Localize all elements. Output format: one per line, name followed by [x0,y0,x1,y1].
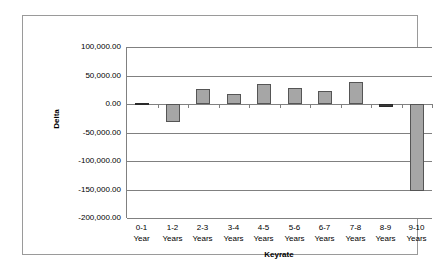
x-axis-tickmark [219,104,220,108]
x-axis-tickmark [310,104,311,108]
y-axis-tick-label: -150,000.00 [53,185,121,195]
gridline [127,218,432,219]
gridline [127,47,432,48]
x-axis-tick-label-line: Years [248,233,279,244]
bar [288,88,302,104]
y-axis-tick-labels: 100,000.0050,000.000.00-50,000.00-100,00… [53,42,121,222]
x-axis-tick-label-line: Years [157,233,188,244]
bar [349,82,363,104]
x-axis-tick-label-line: Years [401,233,432,244]
bar [410,104,424,191]
x-axis-tickmark [249,104,250,108]
x-axis-title: Keyrate [126,250,432,259]
bar [196,89,210,104]
x-axis-tick-label-line: Years [370,233,401,244]
x-axis-tick-label: 9-10Years [401,222,432,244]
x-axis-tick-label: 3-4Years [218,222,249,244]
x-axis-tick-label: 8-9Years [370,222,401,244]
x-axis-tickmark [188,104,189,108]
x-axis-tick-label-line: 9-10 [401,222,432,233]
chart-frame: Delta 100,000.0050,000.000.00-50,000.00-… [22,15,418,255]
x-axis-tick-labels: 0-1Year1-2Years2-3Years3-4Years4-5Years5… [126,222,432,252]
gridline [127,133,432,134]
x-axis-tick-label: 5-6Years [279,222,310,244]
y-axis-tick-label: 100,000.00 [53,42,121,52]
x-axis-tick-label-line: 0-1 [126,222,157,233]
x-axis-tick-label-line: 1-2 [157,222,188,233]
y-axis-tick-label: 0.00 [53,99,121,109]
x-axis-tick-label: 0-1Year [126,222,157,244]
bar [227,94,241,104]
x-axis-tickmark [371,104,372,108]
gridline [127,161,432,162]
x-axis-tick-label-line: Years [340,233,371,244]
x-axis-tickmark [158,104,159,108]
gridline [127,76,432,77]
bar [379,104,393,107]
y-axis-tick-label: 50,000.00 [53,71,121,81]
bar [257,84,271,104]
x-axis-tick-label-line: 4-5 [248,222,279,233]
bar [318,91,332,104]
x-axis-tick-label-line: Years [187,233,218,244]
x-axis-tick-label-line: Years [218,233,249,244]
plot-area [126,47,432,218]
x-axis-tick-label-line: 3-4 [218,222,249,233]
x-axis-tick-label-line: 6-7 [309,222,340,233]
x-axis-tickmark [432,104,433,108]
x-axis-tick-label-line: 5-6 [279,222,310,233]
y-axis-tick-label: -100,000.00 [53,156,121,166]
x-axis-tick-label-line: Years [309,233,340,244]
x-axis-tick-label: 1-2Years [157,222,188,244]
x-axis-tick-label-line: Years [279,233,310,244]
x-axis-tick-label-line: Year [126,233,157,244]
bar [135,103,149,105]
gridline [127,190,432,191]
y-axis-tick-label: -200,000.00 [53,213,121,223]
x-axis-tick-label-line: 2-3 [187,222,218,233]
x-axis-tickmark [402,104,403,108]
x-axis-tick-label-line: 8-9 [370,222,401,233]
y-axis-tick-label: -50,000.00 [53,128,121,138]
x-axis-tick-label: 2-3Years [187,222,218,244]
x-axis-tickmark [280,104,281,108]
x-axis-tick-label-line: 7-8 [340,222,371,233]
x-axis-tickmark [341,104,342,108]
bar [166,104,180,122]
x-axis-tick-label: 7-8Years [340,222,371,244]
x-axis-tick-label: 4-5Years [248,222,279,244]
x-axis-tick-label: 6-7Years [309,222,340,244]
